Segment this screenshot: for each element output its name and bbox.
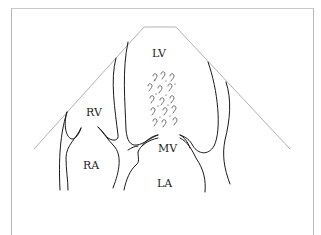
label-left-atrium: LA — [157, 177, 173, 190]
label-right-ventricle: RV — [86, 106, 103, 119]
label-left-ventricle: LV — [152, 47, 167, 60]
label-mitral-valve: MV — [158, 142, 178, 155]
heart-diagram: LV RV RA MV LA — [0, 0, 321, 235]
label-right-atrium: RA — [83, 159, 100, 172]
left-ventricle-lateral-wall — [180, 62, 230, 192]
right-atrium-wall — [59, 112, 81, 190]
turbulent-flow-swirls — [148, 72, 177, 127]
interventricular-septum — [98, 42, 158, 190]
